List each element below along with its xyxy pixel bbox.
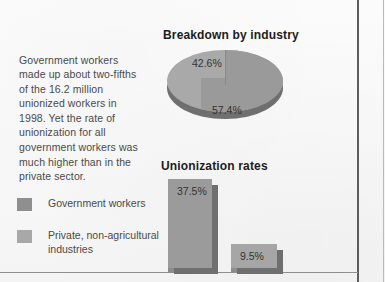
legend-label-private-industries: Private, non-agricultural industries [48,229,166,256]
legend-swatch-government-workers [17,198,32,211]
bar-government-workers: 37.5% [168,179,212,268]
pie-slice-label-private-industries: 57.4% [212,104,242,116]
legend-item-private-industries: Private, non-agricultural industries [17,229,166,256]
pie-slice-divider [225,50,226,85]
legend-item-government-workers: Government workers [17,197,166,211]
scanned-page: Government workers made up about two-fif… [0,0,385,282]
pie-chart: 42.6% 57.4% [167,48,285,120]
intro-paragraph: Government workers made up about two-fif… [19,53,141,184]
pie-slice-label-government-workers: 42.6% [192,57,222,69]
page-edge-rule [383,0,384,282]
bar-value-private-industries: 9.5% [240,250,264,262]
pie-chart-title: Breakdown by industry [163,28,299,42]
bar-chart-title: Unionization rates [161,159,268,173]
bar-private-industries: 9.5% [231,244,277,268]
bar-value-government-workers: 37.5% [177,185,207,197]
legend-swatch-private-industries [17,230,32,243]
legend-label-government-workers: Government workers [48,197,166,211]
pie-chart-surface [167,50,283,112]
bar-chart: 37.5% 9.5% [160,174,360,272]
pie-slice-private-industries [225,50,283,112]
